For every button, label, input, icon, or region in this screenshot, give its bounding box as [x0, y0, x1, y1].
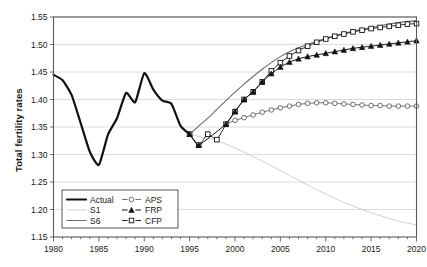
- data-point-marker: [287, 59, 293, 64]
- data-point-marker: [387, 24, 392, 29]
- x-tick-label: 2000: [226, 244, 245, 254]
- y-tick-label: 1.20: [31, 205, 48, 215]
- y-tick-label: 1.30: [31, 150, 48, 160]
- series-s1: [190, 134, 417, 225]
- chart-legend: ActualS1S6APSFRPCFP: [62, 190, 178, 228]
- data-point-marker: [405, 22, 410, 27]
- data-point-marker: [129, 218, 134, 223]
- y-tick-label: 1.35: [31, 122, 48, 132]
- data-point-marker: [333, 101, 338, 106]
- x-tick-label: 1980: [44, 244, 63, 254]
- legend-label: S1: [90, 205, 101, 215]
- data-point-marker: [323, 37, 328, 42]
- data-point-marker: [296, 48, 301, 53]
- legend-label: APS: [145, 195, 162, 205]
- data-point-marker: [378, 25, 383, 30]
- x-tick-label: 2015: [362, 244, 381, 254]
- y-tick-label: 1.15: [31, 232, 48, 242]
- data-point-marker: [369, 103, 374, 108]
- data-point-marker: [396, 23, 401, 28]
- data-point-marker: [360, 28, 365, 33]
- data-point-marker: [251, 113, 256, 118]
- data-point-marker: [405, 104, 410, 109]
- y-tick-label: 1.40: [31, 95, 48, 105]
- data-point-marker: [323, 101, 328, 106]
- data-point-marker: [296, 102, 301, 107]
- series-cfp: [187, 21, 418, 147]
- data-point-marker: [260, 110, 265, 115]
- x-tick-label: 2010: [316, 244, 335, 254]
- data-point-marker: [215, 137, 220, 142]
- data-point-marker: [314, 101, 319, 106]
- data-point-marker: [314, 40, 319, 45]
- x-tick-label: 2005: [271, 244, 290, 254]
- y-tick-label: 1.55: [31, 12, 48, 22]
- series-s6: [190, 21, 417, 134]
- y-tick-label: 1.45: [31, 67, 48, 77]
- legend-label: FRP: [145, 205, 162, 215]
- legend-label: CFP: [145, 216, 162, 226]
- data-point-marker: [333, 34, 338, 39]
- data-point-marker: [360, 103, 365, 108]
- x-axis-ticks: 198019851990199520002005201020152020: [44, 237, 426, 254]
- data-point-marker: [287, 54, 292, 59]
- data-point-marker: [351, 30, 356, 35]
- data-point-marker: [278, 105, 283, 110]
- data-point-marker: [287, 104, 292, 109]
- data-point-marker: [269, 108, 274, 113]
- series-actual: [54, 73, 190, 165]
- x-tick-label: 2020: [407, 244, 426, 254]
- legend-label: S6: [90, 216, 101, 226]
- data-point-marker: [342, 102, 347, 107]
- data-point-marker: [378, 103, 383, 108]
- data-point-marker: [342, 32, 347, 37]
- data-point-marker: [387, 104, 392, 109]
- data-point-marker: [369, 26, 374, 31]
- data-point-marker: [305, 44, 310, 49]
- data-point-marker: [233, 118, 238, 123]
- data-point-marker: [351, 102, 356, 107]
- data-point-marker: [242, 115, 247, 120]
- x-tick-label: 1995: [180, 244, 199, 254]
- x-tick-label: 1990: [135, 244, 154, 254]
- data-point-marker: [205, 132, 210, 137]
- data-point-marker: [129, 197, 134, 202]
- data-point-marker: [305, 101, 310, 106]
- chart-plot-area: 1.151.201.251.301.351.401.451.501.55 198…: [0, 0, 427, 267]
- series-aps: [224, 101, 419, 127]
- fertility-rates-chart: Total fertility rates 1.151.201.251.301.…: [0, 0, 427, 267]
- y-tick-label: 1.25: [31, 177, 48, 187]
- y-tick-label: 1.50: [31, 40, 48, 50]
- y-axis-ticks: 1.151.201.251.301.351.401.451.501.55: [31, 12, 54, 242]
- legend-label: Actual: [90, 195, 114, 205]
- data-point-marker: [396, 104, 401, 109]
- x-tick-label: 1985: [89, 244, 108, 254]
